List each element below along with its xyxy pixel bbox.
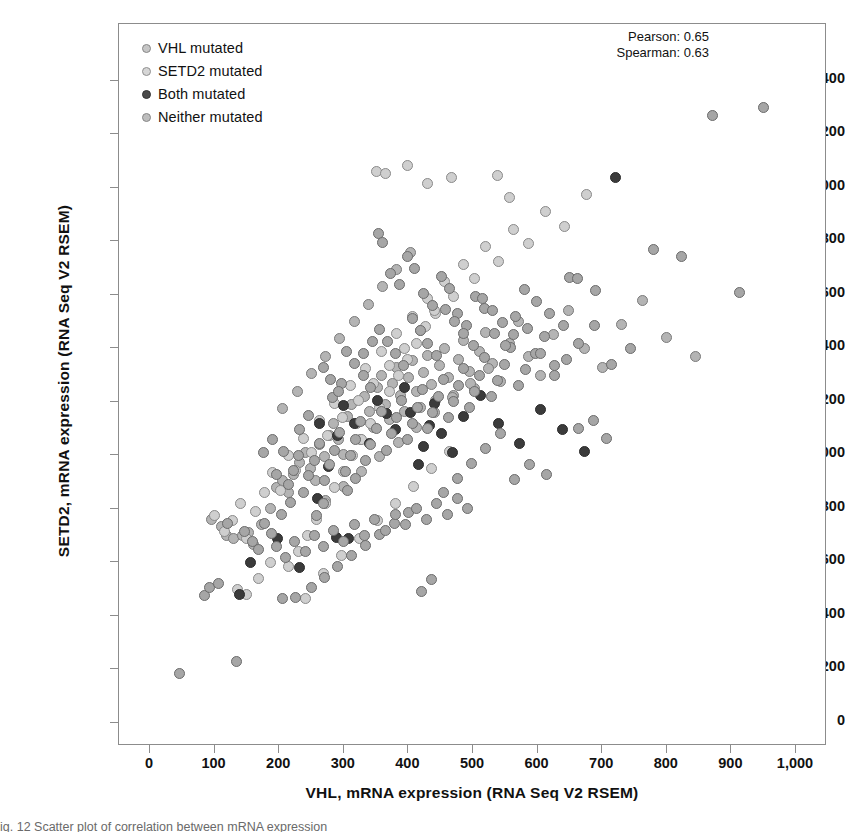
scatter-point [300, 546, 311, 557]
scatter-point [449, 316, 460, 327]
scatter-point [531, 296, 542, 307]
scatter-point [416, 586, 427, 597]
scatter-point [447, 447, 458, 458]
scatter-point [535, 370, 546, 381]
legend-item-setd2[interactable]: SETD2 mutated [142, 61, 263, 81]
scatter-point [380, 525, 391, 536]
legend-marker-icon [142, 44, 151, 53]
scatter-point [426, 574, 437, 585]
scatter-point [318, 362, 329, 373]
scatter-point [350, 434, 361, 445]
scatter-point [734, 287, 745, 298]
scatter-point [601, 433, 612, 444]
scatter-point [579, 446, 590, 457]
scatter-point [477, 293, 488, 304]
scatter-point [329, 445, 340, 456]
scatter-point [661, 332, 672, 343]
scatter-point [411, 338, 422, 349]
y-tick [110, 240, 118, 241]
scatter-point [541, 469, 552, 480]
scatter-point [557, 424, 568, 435]
scatter-point [334, 427, 345, 438]
y-tick [110, 187, 118, 188]
scatter-point [306, 368, 317, 379]
scatter-point [390, 348, 401, 359]
scatter-point [453, 380, 464, 391]
scatter-point [209, 510, 220, 521]
scatter-point [444, 283, 455, 294]
scatter-point [448, 396, 459, 407]
scatter-point [402, 251, 413, 262]
y-tick [110, 294, 118, 295]
correlation-stats: Pearson: 0.65 Spearman: 0.63 [616, 29, 709, 61]
scatter-point [318, 541, 329, 552]
scatter-point [213, 578, 224, 589]
scatter-point [174, 668, 185, 679]
pearson-value: Pearson: 0.65 [616, 29, 709, 45]
scatter-point [409, 263, 420, 274]
scatter-point [523, 238, 534, 249]
scatter-point [540, 206, 551, 217]
scatter-point [360, 455, 371, 466]
scatter-point [411, 503, 422, 514]
scatter-point [376, 346, 387, 357]
scatter-point [438, 487, 449, 498]
scatter-point [558, 320, 569, 331]
scatter-point [402, 434, 413, 445]
legend-item-label: Neither mutated [158, 109, 263, 125]
y-tick [110, 401, 118, 402]
scatter-point [293, 450, 304, 461]
x-tick [601, 745, 602, 753]
scatter-point [469, 273, 480, 284]
scatter-point [487, 305, 498, 316]
y-tick [110, 668, 118, 669]
legend-item-both[interactable]: Both mutated [142, 84, 263, 104]
legend-marker-icon [142, 67, 151, 76]
scatter-point [573, 423, 584, 434]
scatter-point [349, 519, 360, 530]
scatter-point [314, 418, 325, 429]
scatter-point [500, 340, 511, 351]
scatter-point [280, 552, 291, 563]
scatter-point [372, 395, 383, 406]
scatter-point [266, 528, 277, 539]
legend-item-neither[interactable]: Neither mutated [142, 107, 263, 127]
legend-item-label: SETD2 mutated [158, 63, 262, 79]
scatter-point [384, 360, 395, 371]
scatter-point [276, 509, 287, 520]
scatter-point [436, 428, 447, 439]
scatter-point [340, 466, 351, 477]
scatter-point [468, 340, 479, 351]
scatter-points-layer [119, 24, 825, 744]
scatter-point [412, 402, 423, 413]
scatter-point [402, 160, 413, 171]
scatter-point [508, 329, 519, 340]
scatter-point [483, 363, 494, 374]
scatter-point [253, 544, 264, 555]
scatter-point [625, 343, 636, 354]
scatter-point [258, 447, 269, 458]
x-tick [795, 745, 796, 753]
scatter-point [318, 498, 329, 509]
plot-area [118, 23, 826, 745]
scatter-point [306, 582, 317, 593]
scatter-point [676, 251, 687, 262]
scatter-point [513, 380, 524, 391]
legend-item-vhl[interactable]: VHL mutated [142, 38, 263, 58]
scatter-point [758, 102, 769, 113]
scatter-point [493, 256, 504, 267]
scatter-point [544, 308, 555, 319]
scatter-point [504, 192, 515, 203]
scatter-point [359, 530, 370, 541]
scatter-point [422, 338, 433, 349]
scatter-point [417, 384, 428, 395]
x-tick [537, 745, 538, 753]
scatter-point [539, 331, 550, 342]
scatter-point [391, 328, 402, 339]
scatter-point [422, 178, 433, 189]
x-tick [278, 745, 279, 753]
scatter-point [363, 299, 374, 310]
scatter-point [413, 459, 424, 470]
scatter-point [443, 412, 454, 423]
y-tick [110, 722, 118, 723]
